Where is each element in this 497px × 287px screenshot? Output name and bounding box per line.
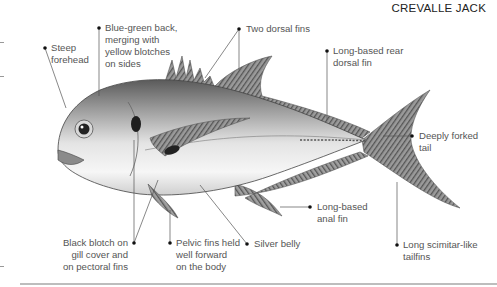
- label-forked-tail: Deeply forked tail: [419, 130, 478, 154]
- label-rear-dorsal-fin: Long-based rear dorsal fin: [333, 45, 403, 69]
- label-pelvic-fins: Pelvic fins held well forward on the bod…: [176, 237, 240, 273]
- label-scimitar-tailfins: Long scimitar-like tailfins: [403, 239, 478, 263]
- bottom-divider: [20, 283, 497, 285]
- label-steep-forehead: Steep forehead: [51, 42, 89, 66]
- label-black-blotch: Black blotch on gill cover and on pector…: [63, 237, 128, 273]
- label-two-dorsal-fins: Two dorsal fins: [246, 23, 310, 35]
- label-silver-belly: Silver belly: [254, 238, 300, 250]
- fish-body: [58, 80, 366, 195]
- label-blue-green-back: Blue-green back, merging with yellow blo…: [105, 22, 178, 70]
- label-anal-fin: Long-based anal fin: [317, 201, 368, 225]
